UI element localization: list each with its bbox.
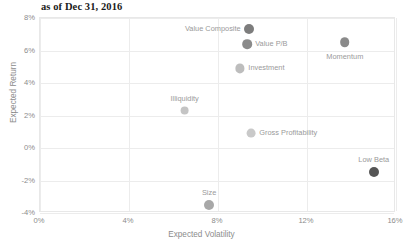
- x-tick-label: 4%: [123, 216, 134, 225]
- scatter-chart: as of Dec 31, 2016 8%6%4%2%0%-2%-4% Expe…: [0, 0, 403, 245]
- x-tick-label: 16%: [387, 216, 402, 225]
- gridline-vertical: [307, 18, 308, 211]
- y-tick-label: 0%: [24, 143, 35, 152]
- gridline-vertical: [218, 18, 219, 211]
- gridline-horizontal: [40, 148, 394, 149]
- gridline-horizontal: [40, 83, 394, 84]
- data-point-label: Gross Profitability: [259, 130, 317, 137]
- gridline-horizontal: [40, 18, 394, 19]
- data-point-label: Illiquidity: [170, 95, 198, 102]
- data-point[interactable]: [369, 167, 379, 177]
- data-point[interactable]: [180, 106, 189, 115]
- y-tick-label: 6%: [24, 45, 35, 54]
- data-point-label: Investment: [248, 65, 284, 72]
- y-axis-tick-labels: 8%6%4%2%0%-2%-4%: [0, 0, 35, 245]
- data-point[interactable]: [204, 200, 214, 210]
- data-point-label: Low Beta: [358, 156, 389, 163]
- plot-area: Value CompositeValue P/BMomentumInvestme…: [39, 17, 395, 212]
- y-tick-label: -2%: [21, 175, 35, 184]
- x-tick-label: 8%: [212, 216, 223, 225]
- gridline-vertical: [129, 18, 130, 211]
- data-point[interactable]: [242, 39, 252, 49]
- gridline-horizontal: [40, 116, 394, 117]
- data-point[interactable]: [247, 129, 256, 138]
- gridline-vertical: [396, 18, 397, 211]
- data-point-label: Momentum: [326, 53, 363, 60]
- data-point[interactable]: [236, 64, 245, 73]
- y-axis-title: Expected Return: [9, 48, 18, 138]
- x-axis-title: Expected Volatility: [0, 230, 403, 239]
- data-point-label: Value P/B: [255, 40, 287, 47]
- data-point[interactable]: [244, 24, 254, 34]
- chart-title: as of Dec 31, 2016: [41, 1, 122, 12]
- gridline-vertical: [40, 18, 41, 211]
- gridline-horizontal: [40, 213, 394, 214]
- data-point-label: Size: [202, 188, 216, 195]
- y-tick-label: 4%: [24, 78, 35, 87]
- x-tick-label: 12%: [298, 216, 313, 225]
- x-axis-tick-labels: 0%4%8%12%16%: [0, 216, 403, 230]
- y-tick-label: 2%: [24, 110, 35, 119]
- y-tick-label: 8%: [24, 13, 35, 22]
- gridline-horizontal: [40, 181, 394, 182]
- data-point-label: Value Composite: [185, 26, 241, 33]
- data-point[interactable]: [340, 38, 350, 48]
- x-tick-label: 0%: [34, 216, 45, 225]
